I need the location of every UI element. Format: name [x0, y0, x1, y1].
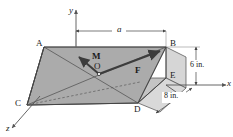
- dimension-label-a: a: [117, 25, 122, 34]
- vertex-label-e: E: [170, 71, 176, 80]
- z-axis-label: z: [6, 124, 10, 133]
- vertex-label-a: A: [36, 39, 43, 48]
- dimension-label-height: 6 in.: [190, 61, 204, 69]
- y-axis-label: y: [69, 6, 73, 15]
- mechanics-figure: y x z A B C D E O M F a 6 in. 8 in.: [0, 0, 233, 137]
- vertex-label-d: D: [134, 105, 141, 114]
- x-axis-label: x: [227, 79, 231, 88]
- point-O-marker: [97, 72, 100, 75]
- vertex-label-c: C: [15, 99, 21, 108]
- point-label-o: O: [94, 62, 101, 71]
- vertex-label-b: B: [170, 39, 176, 48]
- vector-label-m: M: [92, 52, 101, 61]
- vector-label-f: F: [135, 66, 141, 75]
- dimension-label-depth: 8 in.: [164, 92, 178, 100]
